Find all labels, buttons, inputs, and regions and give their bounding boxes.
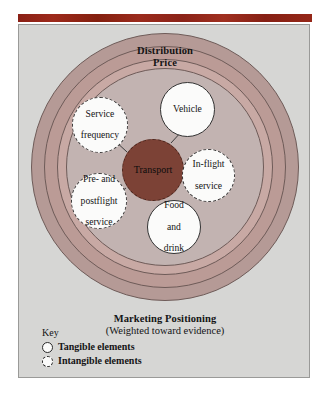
- node-food-and-drink[interactable]: Foodanddrink: [147, 200, 201, 254]
- key-item-tangible-label: Tangible elements: [58, 341, 135, 353]
- bottom-label-title: Marketing Positioning: [19, 313, 311, 325]
- key-title: Key: [42, 327, 242, 339]
- key-item-intangible: Intangible elements: [42, 354, 242, 368]
- node-in-flight-service-label: In-flightservice: [189, 159, 229, 192]
- node-pre-and-postflight-service-label: Pre- andpostflightservice: [77, 174, 122, 229]
- figure-root: Distribution Price Transport Servicefreq…: [0, 0, 325, 398]
- outer-ring-label-line1: Distribution: [137, 45, 193, 56]
- outer-ring-label: Distribution Price: [19, 45, 311, 69]
- dashed-circle-icon: [42, 356, 53, 367]
- node-food-and-drink-label: Foodanddrink: [160, 200, 188, 255]
- key-item-tangible: Tangible elements: [42, 340, 242, 354]
- node-vehicle-label: Vehicle: [171, 104, 204, 115]
- node-service-frequency-label: Servicefrequency: [77, 109, 123, 142]
- node-vehicle[interactable]: Vehicle: [160, 82, 215, 137]
- diagram-panel: Distribution Price Transport Servicefreq…: [18, 24, 310, 378]
- key-legend: Key Tangible elements Intangible element…: [42, 327, 242, 368]
- node-service-frequency[interactable]: Servicefrequency: [72, 97, 128, 153]
- outer-ring-label-line2: Price: [153, 57, 177, 68]
- node-transport[interactable]: Transport: [122, 139, 184, 201]
- key-item-intangible-label: Intangible elements: [58, 355, 142, 367]
- node-in-flight-service[interactable]: In-flightservice: [182, 149, 235, 202]
- solid-circle-icon: [42, 342, 53, 353]
- node-transport-label: Transport: [132, 164, 175, 175]
- node-pre-and-postflight-service[interactable]: Pre- andpostflightservice: [71, 173, 127, 229]
- top-red-rule: [18, 14, 312, 22]
